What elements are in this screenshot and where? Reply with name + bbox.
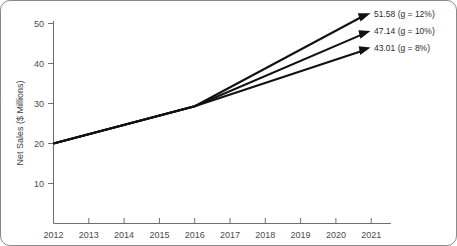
y-axis-title: Net Sales ($ Millions) (15, 80, 25, 165)
y-tick-label-20: 20 (34, 139, 44, 149)
y-tick-labels: 50 40 30 20 10 (34, 19, 44, 189)
y-tick-label-40: 40 (34, 59, 44, 69)
series-line-g12 (54, 17, 362, 144)
series-arrowhead-g10 (358, 30, 370, 39)
series-label-g12: 51.58 (g = 12%) (374, 9, 435, 19)
series-arrowhead-g8 (359, 46, 371, 55)
x-tick-label-2021: 2021 (361, 230, 381, 240)
y-tick-label-10: 10 (34, 179, 44, 189)
y-tick-label-30: 30 (34, 99, 44, 109)
series-end-labels: 51.58 (g = 12%) 47.14 (g = 10%) 43.01 (g… (374, 9, 435, 53)
x-tick-label-2017: 2017 (220, 230, 240, 240)
x-axis: 2012 2013 2014 2015 2016 2017 2018 2019 … (43, 218, 391, 240)
x-tick-label-2015: 2015 (149, 230, 169, 240)
series-line-g8 (54, 51, 362, 144)
x-ticks (54, 218, 372, 224)
x-tick-label-2014: 2014 (114, 230, 134, 240)
x-tick-labels: 2012 2013 2014 2015 2016 2017 2018 2019 … (43, 230, 381, 240)
series-lines (54, 13, 371, 143)
series-label-g10: 47.14 (g = 10%) (374, 26, 435, 36)
series-arrowhead-g12 (358, 13, 371, 21)
x-tick-label-2018: 2018 (255, 230, 275, 240)
x-tick-label-2020: 2020 (326, 230, 346, 240)
chart-frame: 50 40 30 20 10 Net Sales ($ Millions) (0, 0, 457, 246)
series-line-g10 (54, 35, 362, 144)
y-tick-label-50: 50 (34, 19, 44, 29)
x-tick-label-2016: 2016 (185, 230, 205, 240)
x-tick-label-2013: 2013 (79, 230, 99, 240)
y-ticks (48, 24, 54, 184)
x-tick-label-2019: 2019 (291, 230, 311, 240)
net-sales-projection-chart: 50 40 30 20 10 Net Sales ($ Millions) (1, 1, 457, 246)
x-tick-label-2012: 2012 (43, 230, 63, 240)
series-label-g8: 43.01 (g = 8%) (374, 43, 430, 53)
y-axis: 50 40 30 20 10 Net Sales ($ Millions) (15, 19, 54, 223)
